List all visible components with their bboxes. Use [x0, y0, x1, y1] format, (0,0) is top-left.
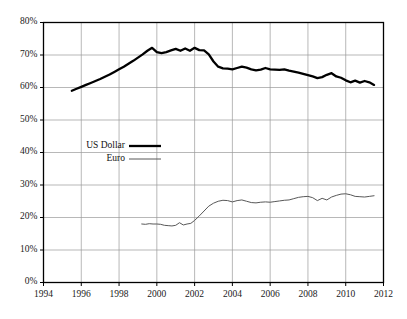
x-axis-tick-label: 2012: [364, 289, 404, 299]
chart-plot-area: [0, 0, 407, 319]
x-axis-tick-label: 2004: [212, 289, 252, 299]
legend-label-euro: Euro: [107, 153, 125, 163]
x-axis-tick-label: 2006: [250, 289, 290, 299]
series-line-euro: [142, 194, 374, 226]
chart-container: 0%10%20%30%40%50%60%70%80%19941996199820…: [0, 0, 407, 319]
series-line-us-dollar: [72, 48, 374, 91]
y-axis-tick-label: 0%: [25, 276, 38, 286]
x-axis-tick-label: 2000: [137, 289, 177, 299]
x-axis-tick-label: 1998: [99, 289, 139, 299]
legend-label-us-dollar: US Dollar: [86, 140, 125, 150]
x-axis-tick-label: 1994: [24, 289, 64, 299]
x-axis-tick-label: 2002: [175, 289, 215, 299]
y-axis-tick-label: 80%: [20, 16, 37, 26]
y-axis-tick-label: 20%: [20, 211, 37, 221]
y-axis-tick-label: 30%: [20, 179, 37, 189]
y-axis-tick-label: 40%: [20, 146, 37, 156]
x-axis-tick-label: 1996: [61, 289, 101, 299]
y-axis-tick-label: 50%: [20, 114, 37, 124]
x-axis-tick-label: 2010: [326, 289, 366, 299]
x-axis-tick-label: 2008: [288, 289, 328, 299]
y-axis-tick-label: 70%: [20, 49, 37, 59]
y-axis-tick-label: 10%: [20, 244, 37, 254]
y-axis-tick-label: 60%: [20, 81, 37, 91]
